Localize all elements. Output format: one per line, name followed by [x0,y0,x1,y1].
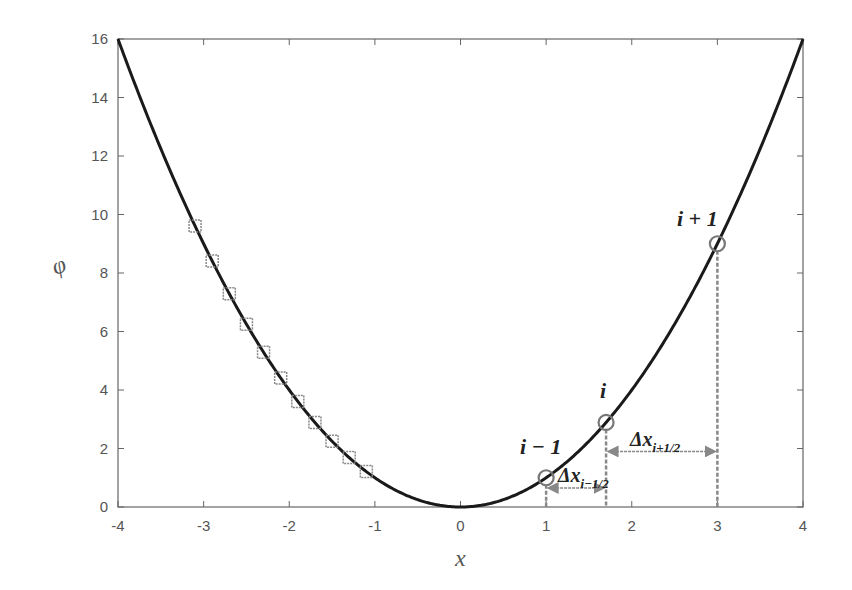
y-tick-label: 14 [91,89,108,106]
x-tick-label: 2 [628,517,636,534]
chart: -4-3-2-1012340246810121416 x φ i − 1 i i… [0,0,852,590]
y-axis-label: φ [48,251,69,280]
y-tick-label: 6 [100,323,108,340]
label-i-plus-1: i + 1 [677,206,718,231]
y-tick-label: 12 [91,147,108,164]
x-tick-label: 1 [542,517,550,534]
delta-x-minus-label: Δxi−1/2 [557,464,609,491]
x-tick-label: -4 [111,517,124,534]
plot-axes: -4-3-2-1012340246810121416 [91,30,807,534]
y-tick-label: 2 [100,440,108,457]
x-tick-label: 4 [799,517,807,534]
axes-box [118,39,803,507]
label-i: i [600,378,607,403]
x-tick-label: -3 [197,517,210,534]
y-tick-label: 4 [100,381,108,398]
x-tick-label: 0 [456,517,464,534]
x-tick-label: -1 [368,517,381,534]
y-tick-label: 0 [100,498,108,515]
y-tick-label: 16 [91,30,108,47]
y-tick-label: 8 [100,264,108,281]
parabola-curve [118,39,803,507]
x-tick-label: 3 [713,517,721,534]
x-tick-label: -2 [283,517,296,534]
square-markers [189,220,372,478]
x-axis-label: x [454,545,466,571]
y-tick-label: 10 [91,206,108,223]
label-i-minus-1: i − 1 [520,434,561,459]
